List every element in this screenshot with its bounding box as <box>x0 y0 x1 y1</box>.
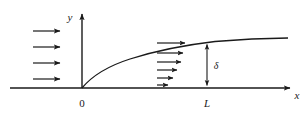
velocity-profile-arrow-group <box>157 43 185 85</box>
boundary-layer-curve <box>82 38 288 88</box>
y-axis-label: y <box>67 11 73 23</box>
freestream-arrow-group <box>33 31 60 79</box>
x-axis-label: x <box>294 89 300 101</box>
plate-length-label: L <box>203 97 210 109</box>
origin-label: 0 <box>79 97 85 109</box>
figure-canvas: y x 0 L δ <box>0 0 306 117</box>
boundary-layer-figure: y x 0 L δ <box>0 0 306 117</box>
boundary-thickness-label: δ <box>214 60 219 71</box>
